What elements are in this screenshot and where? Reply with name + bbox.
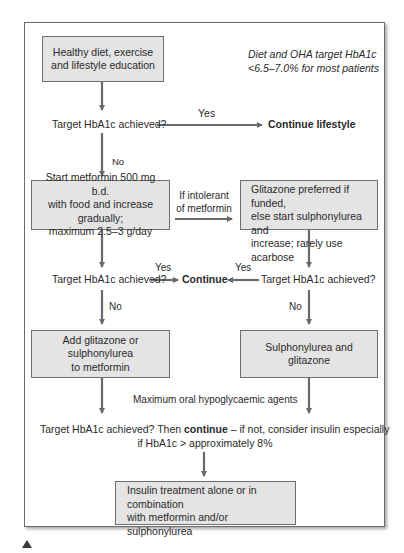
no-label-right: No [289, 300, 302, 314]
glitazone-pref-line3: increase; rarely use acarbose [251, 237, 373, 264]
yes-label-top: Yes [198, 107, 215, 121]
lifestyle-education-box: Healthy diet, exercise and lifestyle edu… [42, 36, 164, 82]
final-question-bold: continue [184, 423, 228, 435]
metformin-line2: with food and increase gradually; [36, 198, 165, 225]
sulph-glitazone-text: Sulphonylurea and glitazone [245, 341, 373, 368]
insulin-line1: Insulin treatment alone or in combinatio… [127, 484, 291, 511]
add-glitazone-line2: to metformin [71, 361, 129, 375]
final-question-part1: Target HbA1c achieved? Then [40, 423, 184, 435]
continue-label: Continue [182, 273, 228, 287]
glitazone-pref-line1: Glitazone preferred if funded, [251, 183, 373, 210]
target-question-2-right: Target HbA1c achieved? [261, 273, 375, 287]
add-glitazone-box: Add glitazone or sulphonylurea to metfor… [31, 330, 170, 378]
no-label-left: No [109, 300, 122, 314]
target-note-line1: Diet and OHA target HbA1c [248, 48, 379, 62]
intolerant-label: If intolerant of metformin [176, 190, 232, 215]
glitazone-pref-line2: else start sulphonylurea and [251, 210, 373, 237]
yes-label-right: Yes [235, 261, 251, 275]
final-question-line2: if HbA1c > approximately 8% [40, 437, 370, 451]
target-question-1: Target HbA1c achieved? [52, 118, 166, 132]
lifestyle-line2: and lifestyle education [51, 59, 155, 73]
final-question-line1: Target HbA1c achieved? Then continue – i… [40, 423, 370, 437]
target-note: Diet and OHA target HbA1c <6.5–7.0% for … [248, 48, 379, 75]
final-question: Target HbA1c achieved? Then continue – i… [40, 423, 370, 450]
final-question-part2: – if not, consider insulin especially [228, 423, 390, 435]
triangle-marker-icon [22, 540, 32, 548]
yes-label-left: Yes [155, 261, 171, 275]
target-question-2-left: Target HbA1c achieved? [52, 273, 166, 287]
insulin-treatment-box: Insulin treatment alone or in combinatio… [115, 481, 296, 525]
metformin-line3: maximum 2.5–3 g/day [49, 225, 152, 239]
sulphonylurea-glitazone-box: Sulphonylurea and glitazone [240, 330, 378, 378]
metformin-line1: Start metformin 500 mg b.d. [36, 171, 165, 198]
continue-lifestyle: Continue lifestyle [268, 118, 356, 132]
glitazone-preferred-box: Glitazone preferred if funded, else star… [240, 180, 378, 230]
intolerant-line2: of metformin [176, 203, 232, 216]
insulin-line2: with metformin and/or sulphonylurea [127, 511, 291, 538]
metformin-box: Start metformin 500 mg b.d. with food an… [31, 180, 170, 230]
no-label-top: No [112, 155, 124, 169]
add-glitazone-line1: Add glitazone or sulphonylurea [36, 334, 165, 361]
max-oral-agents-label: Maximum oral hypoglycaemic agents [133, 393, 298, 407]
intolerant-line1: If intolerant [176, 190, 232, 203]
lifestyle-line1: Healthy diet, exercise [53, 46, 153, 60]
target-note-line2: <6.5–7.0% for most patients [248, 62, 379, 76]
